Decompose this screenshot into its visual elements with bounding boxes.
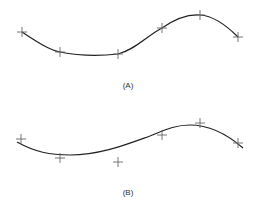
plus-marker-icon (195, 10, 205, 20)
panel-a-label: (A) (123, 81, 134, 90)
panel-b-label: (B) (123, 188, 134, 197)
plus-marker-icon (113, 49, 123, 59)
curve (17, 125, 243, 155)
panel-b (16, 118, 243, 167)
plus-marker-icon (113, 157, 123, 167)
plus-marker-icon (17, 27, 27, 37)
curve (22, 15, 238, 55)
figure-canvas (0, 0, 257, 215)
plus-marker-icon (157, 23, 167, 33)
plus-marker-icon (157, 130, 167, 140)
panel-a (17, 10, 243, 59)
plus-marker-icon (55, 47, 65, 57)
